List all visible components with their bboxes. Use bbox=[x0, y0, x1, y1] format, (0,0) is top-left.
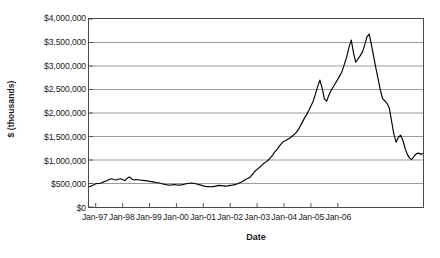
plot-svg bbox=[89, 19, 423, 207]
x-axis-title: Date bbox=[88, 232, 424, 242]
x-tick-label: Jan-99 bbox=[136, 212, 162, 222]
y-tick-label: $4,000,000 bbox=[44, 13, 86, 23]
x-tick-label: Jan-04 bbox=[271, 212, 297, 222]
line-chart: $ (thousands) $0$500,000$1,000,000$1,500… bbox=[0, 0, 440, 258]
x-tick-label: Jan-00 bbox=[163, 212, 189, 222]
x-tick-label: Jan-05 bbox=[298, 212, 324, 222]
y-tick-label: $2,000,000 bbox=[44, 108, 86, 118]
y-tick-label: $3,000,000 bbox=[44, 61, 86, 71]
x-tick-label: Jan-02 bbox=[217, 212, 243, 222]
x-tick-label: Jan-06 bbox=[325, 212, 351, 222]
y-tick-label: $1,500,000 bbox=[44, 132, 86, 142]
x-tick-label: Jan-97 bbox=[82, 212, 108, 222]
data-series-line bbox=[89, 34, 423, 187]
x-axis-tick-labels: Jan-97Jan-98Jan-99Jan-00Jan-01Jan-02Jan-… bbox=[88, 208, 424, 234]
x-tick-label: Jan-03 bbox=[244, 212, 270, 222]
x-tick-label: Jan-98 bbox=[109, 212, 135, 222]
y-tick-label: $2,500,000 bbox=[44, 84, 86, 94]
x-tick-label: Jan-01 bbox=[190, 212, 216, 222]
gridlines bbox=[89, 19, 423, 207]
y-tick-label: $500,000 bbox=[51, 179, 86, 189]
y-tick-label: $1,000,000 bbox=[44, 156, 86, 166]
y-tick-label: $3,500,000 bbox=[44, 37, 86, 47]
y-axis-tick-labels: $0$500,000$1,000,000$1,500,000$2,000,000… bbox=[10, 0, 86, 218]
plot-area bbox=[88, 18, 424, 208]
